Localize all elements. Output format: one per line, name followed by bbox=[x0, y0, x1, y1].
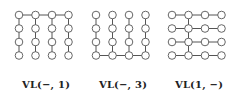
grid-node bbox=[92, 11, 100, 19]
grid-node bbox=[185, 52, 193, 60]
grid-node bbox=[168, 11, 176, 19]
grid-node bbox=[218, 25, 226, 33]
grid-node bbox=[125, 25, 133, 33]
grid-node bbox=[125, 11, 133, 19]
grid-node bbox=[65, 11, 73, 19]
grid-node bbox=[48, 25, 56, 33]
grid-node bbox=[218, 38, 226, 46]
grid-node bbox=[142, 11, 150, 19]
grid-node bbox=[15, 52, 23, 60]
grid-node bbox=[32, 52, 40, 60]
grid-node bbox=[92, 38, 100, 46]
grid-node bbox=[168, 25, 176, 33]
grid-node bbox=[32, 38, 40, 46]
panel-label-vl-minus-3: VL(−, 3) bbox=[93, 79, 153, 90]
panel-label-vl-1-minus: VL(1, −) bbox=[169, 79, 229, 90]
grid-node bbox=[109, 11, 117, 19]
grid-node bbox=[48, 52, 56, 60]
grid-node bbox=[109, 25, 117, 33]
grid-node bbox=[15, 38, 23, 46]
panel-label-vl-minus-1: VL(−, 1) bbox=[16, 79, 76, 90]
grid-node bbox=[92, 25, 100, 33]
grid-node bbox=[32, 11, 40, 19]
grid-node bbox=[15, 11, 23, 19]
grid-node bbox=[92, 52, 100, 60]
grid-node bbox=[142, 38, 150, 46]
grid-node bbox=[15, 25, 23, 33]
panel-vl-1-minus bbox=[168, 11, 225, 59]
grid-node bbox=[109, 38, 117, 46]
grid-node bbox=[218, 52, 226, 60]
grid-node bbox=[201, 52, 209, 60]
panel-vl-minus-3 bbox=[92, 11, 149, 59]
grid-node bbox=[201, 11, 209, 19]
grid-node bbox=[142, 25, 150, 33]
grid-node bbox=[218, 11, 226, 19]
grid-node bbox=[125, 52, 133, 60]
panel-vl-minus-1 bbox=[15, 11, 72, 59]
grid-node bbox=[48, 11, 56, 19]
grid-node bbox=[48, 38, 56, 46]
grid-node bbox=[142, 52, 150, 60]
grid-node bbox=[32, 25, 40, 33]
grid-node bbox=[185, 38, 193, 46]
grid-node bbox=[168, 38, 176, 46]
grid-node bbox=[125, 38, 133, 46]
grid-node bbox=[201, 38, 209, 46]
grid-node bbox=[168, 52, 176, 60]
grid-node bbox=[201, 25, 209, 33]
grid-node bbox=[65, 38, 73, 46]
grid-node bbox=[65, 25, 73, 33]
grid-node bbox=[185, 25, 193, 33]
grid-node bbox=[65, 52, 73, 60]
grid-node bbox=[185, 11, 193, 19]
grid-node bbox=[109, 52, 117, 60]
